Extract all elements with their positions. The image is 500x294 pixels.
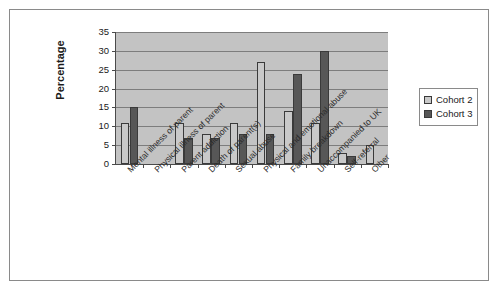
y-tick-mark <box>112 32 116 33</box>
y-tick-label: 15 <box>87 102 109 112</box>
y-tick-mark <box>112 70 116 71</box>
y-tick-label: 20 <box>87 84 109 94</box>
gridline <box>116 89 388 90</box>
y-axis-tick-labels: 05101520253035 <box>85 28 109 168</box>
legend-label: Cohort 3 <box>436 109 472 119</box>
y-axis-title: Percentage <box>54 10 74 130</box>
y-tick-mark <box>112 164 116 165</box>
y-tick-mark <box>112 51 116 52</box>
legend-entry[interactable]: Cohort 2 <box>424 93 472 107</box>
y-tick-mark <box>112 89 116 90</box>
y-tick-mark <box>112 126 116 127</box>
y-tick-label: 5 <box>87 140 109 150</box>
y-tick-label: 30 <box>87 46 109 56</box>
gridline <box>116 32 388 33</box>
y-tick-mark <box>112 145 116 146</box>
legend-label: Cohort 2 <box>436 95 472 105</box>
y-tick-label: 35 <box>87 27 109 37</box>
y-tick-mark <box>112 107 116 108</box>
y-tick-label: 10 <box>87 121 109 131</box>
bar-cohort-2 <box>121 123 130 164</box>
y-tick-label: 25 <box>87 65 109 75</box>
gridline <box>116 51 388 52</box>
x-axis-tick-labels: Mental illness of parentPhysical illness… <box>115 168 415 268</box>
legend-swatch-cohort-3 <box>424 110 432 118</box>
gridline <box>116 70 388 71</box>
legend-entry[interactable]: Cohort 3 <box>424 107 472 121</box>
gridline <box>116 107 388 108</box>
chart-frame: Percentage 05101520253035 Mental illness… <box>9 9 489 281</box>
y-tick-label: 0 <box>87 159 109 169</box>
chart-legend: Cohort 2 Cohort 3 <box>419 88 478 126</box>
bar-cohort-3 <box>293 74 302 165</box>
legend-swatch-cohort-2 <box>424 96 432 104</box>
